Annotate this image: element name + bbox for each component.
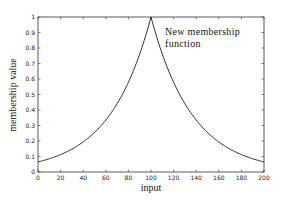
x-tick-label: 80 [125,174,133,181]
x-tick-label: 100 [145,174,157,181]
y-tick-label: 0.3 [25,122,35,129]
x-tick-label: 20 [57,174,65,181]
y-tick-label: 1 [31,13,35,20]
y-tick-label: 0 [31,168,35,175]
membership-curve [38,17,264,162]
y-tick-label: 0.4 [25,106,35,113]
x-tick-label: 40 [79,174,87,181]
x-tick-label: 160 [213,174,225,181]
y-tick-label: 0.6 [25,75,35,82]
annotation-line2: function [165,38,201,49]
y-tick-label: 0.7 [25,60,35,67]
x-tick-label: 200 [258,174,270,181]
x-tick-label: 60 [102,174,110,181]
x-tick-label: 0 [36,174,40,181]
y-tick-label: 0.2 [25,137,35,144]
annotation-line1: New membership [165,26,240,37]
x-axis-ticks: 020406080100120140160180200 [36,17,270,181]
y-tick-label: 0.8 [25,44,35,51]
x-tick-label: 140 [190,174,202,181]
y-tick-label: 0.5 [25,91,35,98]
x-tick-label: 180 [236,174,248,181]
x-tick-label: 120 [168,174,180,181]
x-axis-label: input [141,182,162,193]
membership-function-chart: 020406080100120140160180200 00.10.20.30.… [0,0,283,203]
y-axis-label: membership value [7,58,18,132]
y-tick-label: 0.1 [25,153,35,160]
y-tick-label: 0.9 [25,29,35,36]
